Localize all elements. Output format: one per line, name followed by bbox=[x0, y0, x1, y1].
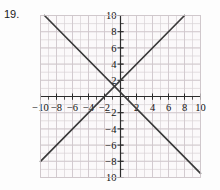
y-tick-label: 6 bbox=[111, 43, 116, 54]
y-tick-label: −4 bbox=[105, 124, 117, 135]
x-tick-label: 6 bbox=[166, 102, 171, 113]
y-tick-label: −2 bbox=[105, 107, 116, 118]
coordinate-plane-figure: −10−8−6−4−2246810108642−2−4−6−8−10 bbox=[0, 0, 220, 190]
x-tick-label: 8 bbox=[182, 102, 187, 113]
y-tick-label: −8 bbox=[105, 156, 116, 167]
y-tick-label: 8 bbox=[111, 26, 116, 37]
x-tick-label: −6 bbox=[67, 102, 78, 113]
y-tick-label: 4 bbox=[111, 59, 117, 70]
y-tick-label: −6 bbox=[105, 140, 116, 151]
x-tick-label: −8 bbox=[51, 102, 62, 113]
x-tick-label: 4 bbox=[150, 102, 156, 113]
worksheet-page: 19. −10−8−6−4−2246810108642−2−4−6−8−10 bbox=[0, 0, 220, 190]
coordinate-grid-chart: −10−8−6−4−2246810108642−2−4−6−8−10 bbox=[0, 0, 220, 190]
